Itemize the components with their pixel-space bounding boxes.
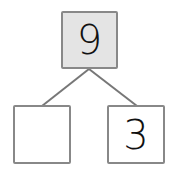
part-box-right: 3 xyxy=(107,105,165,164)
part-right-value: 3 xyxy=(123,115,148,155)
connector-left xyxy=(42,69,89,106)
part-box-left[interactable] xyxy=(13,105,71,164)
whole-value: 9 xyxy=(77,20,102,60)
whole-box: 9 xyxy=(61,11,118,69)
connector-right xyxy=(89,69,137,106)
